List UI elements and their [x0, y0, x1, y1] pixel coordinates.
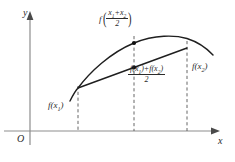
label-top-paren-left: (	[103, 11, 107, 27]
label-top-paren-right: )	[128, 11, 132, 27]
label-right-main: f(x	[192, 61, 202, 71]
label-mid-f2: f(x	[149, 64, 157, 73]
label-f-x1: f(x1)	[48, 101, 64, 110]
origin-label: O	[17, 134, 24, 144]
label-f-x2: f(x2)	[192, 62, 208, 71]
label-top-denominator: 2	[106, 19, 128, 29]
y-axis-arrow-icon	[27, 11, 34, 20]
label-top-x2-sub: 2	[123, 13, 126, 19]
label-mid-fraction: f(x1)+f(x2) 2	[128, 64, 165, 85]
label-top-function-name: f	[99, 14, 102, 24]
label-right-close: )	[205, 61, 208, 71]
x-axis-arrow-icon	[211, 128, 220, 135]
label-mid-numerator: f(x1)+f(x2)	[128, 64, 165, 75]
label-mid-f2-close: )	[160, 64, 163, 73]
label-f-of-midpoint: f( x1+x2 2 )	[99, 8, 133, 29]
label-mid-denominator: 2	[128, 75, 165, 85]
x-axis-label: x	[218, 136, 222, 146]
label-left-main: f(x	[48, 100, 58, 110]
label-left-close: )	[61, 100, 64, 110]
label-chord-midpoint-value: f(x1)+f(x2) 2	[128, 64, 165, 85]
y-axis-label: y	[23, 8, 27, 18]
curve-midpoint-dot	[132, 41, 136, 45]
y-axis	[27, 11, 34, 145]
label-top-numerator: x1+x2	[106, 8, 128, 19]
figure-container: y x O f( x1+x2 2 ) f(x1)+f(x2) 2 f(x2) f…	[0, 0, 235, 162]
x-axis	[4, 128, 220, 135]
label-top-fraction: x1+x2 2	[106, 8, 128, 29]
